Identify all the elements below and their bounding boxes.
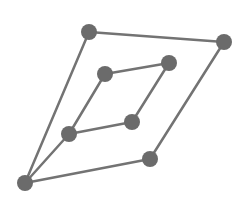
- node-H: [17, 175, 33, 191]
- node-F: [61, 126, 77, 142]
- node-D: [161, 55, 177, 71]
- edge-C-F: [69, 74, 105, 134]
- nodes-group: [17, 24, 232, 191]
- edge-A-H: [25, 32, 89, 183]
- edges-group: [25, 32, 224, 183]
- edge-D-E: [132, 63, 169, 122]
- edge-A-B: [89, 32, 224, 42]
- edge-E-F: [69, 122, 132, 134]
- node-B: [216, 34, 232, 50]
- edge-B-G: [150, 42, 224, 159]
- graph-svg: [0, 0, 249, 205]
- graph-diagram: [0, 0, 249, 205]
- node-E: [124, 114, 140, 130]
- node-G: [142, 151, 158, 167]
- node-C: [97, 66, 113, 82]
- edge-C-D: [105, 63, 169, 74]
- node-A: [81, 24, 97, 40]
